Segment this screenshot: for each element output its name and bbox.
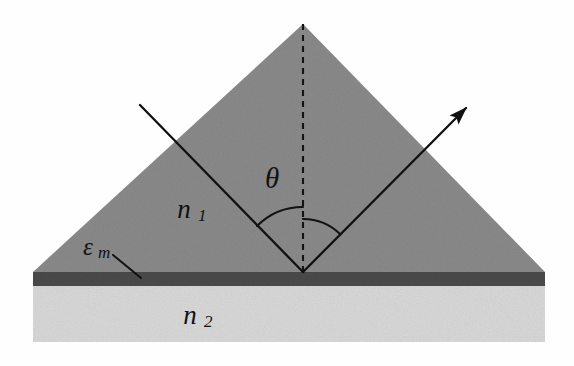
n1-symbol: n <box>177 194 191 224</box>
spr-diagram-canvas: θ n 1 n 2 ε m <box>0 0 574 366</box>
angle-theta-label: θ <box>265 162 279 194</box>
metal-film-layer <box>33 272 545 286</box>
epsilon-m-symbol: ε <box>83 233 93 260</box>
n1-subscript: 1 <box>198 206 207 225</box>
n2-subscript: 2 <box>204 312 213 331</box>
substrate-layer <box>33 286 545 342</box>
n2-symbol: n <box>183 300 197 330</box>
spr-diagram-figure: θ n 1 n 2 ε m <box>0 0 574 366</box>
epsilon-m-subscript: m <box>98 243 110 262</box>
